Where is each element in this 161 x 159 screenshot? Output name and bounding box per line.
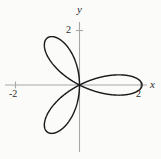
polar-rose-figure: y x 2 -2 2 (0, 0, 161, 159)
y-tick-label-2: 2 (66, 25, 71, 35)
x-axis-label: x (150, 79, 155, 90)
x-tick-label-neg2: -2 (9, 89, 17, 99)
y-axis-label: y (77, 4, 82, 15)
plot-canvas (0, 0, 161, 159)
x-tick-label-2: 2 (136, 89, 141, 99)
